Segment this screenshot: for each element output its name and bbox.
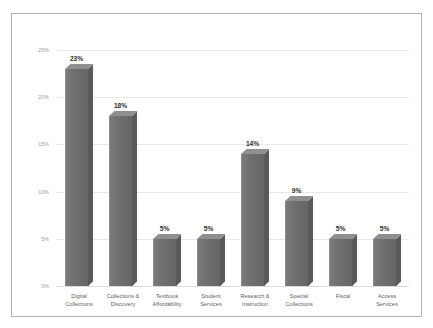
plot-area: 0%5%10%15%20%25% 23%18%5%5%14%9%5%5% (57, 50, 409, 286)
bar-value-label: 5% (153, 225, 176, 232)
bar-front-face (153, 239, 177, 286)
bar-side-face (352, 234, 357, 286)
bar-shape[interactable] (241, 154, 264, 286)
bar-side-face (176, 234, 181, 286)
bar-series: 23%18%5%5%14%9%5%5% (57, 50, 409, 286)
bar-value-label: 5% (197, 225, 220, 232)
bar-column[interactable]: 18% (109, 50, 132, 286)
bar-side-face (264, 149, 269, 286)
bar-column[interactable]: 9% (285, 50, 308, 286)
bar-front-face (285, 201, 309, 286)
bar-value-label: 18% (109, 102, 132, 109)
bar-front-face (241, 154, 265, 286)
y-tick-label: 25% (38, 47, 49, 53)
bar-side-face (88, 64, 93, 286)
bar-column[interactable]: 14% (241, 50, 264, 286)
x-category-label: Digital Collections (57, 292, 101, 308)
bar-value-label: 23% (65, 55, 88, 62)
x-category-label: Special Collections (277, 292, 321, 308)
x-category-label: Access Services (365, 292, 409, 308)
bar-side-face (220, 234, 225, 286)
bar-column[interactable]: 5% (153, 50, 176, 286)
bar-shape[interactable] (197, 239, 220, 286)
bar-shape[interactable] (373, 239, 396, 286)
bar-column[interactable]: 5% (329, 50, 352, 286)
bar-front-face (109, 116, 133, 286)
x-axis-category-labels: Digital CollectionsCollections & Discove… (57, 292, 409, 322)
bar-column[interactable]: 5% (197, 50, 220, 286)
y-tick-label: 15% (38, 141, 49, 147)
x-category-label: Research & Instruction (233, 292, 277, 308)
bar-value-label: 5% (373, 225, 396, 232)
x-category-label: Textbook Affordability (145, 292, 189, 308)
y-tick-label: 5% (41, 236, 49, 242)
bar-front-face (329, 239, 353, 286)
bar-side-face (308, 197, 313, 286)
gridline-0 (57, 286, 409, 287)
y-tick-label: 10% (38, 189, 49, 195)
bar-side-face (396, 234, 401, 286)
bar-shape[interactable] (109, 116, 132, 286)
bar-shape[interactable] (285, 201, 308, 286)
bar-value-label: 5% (329, 225, 352, 232)
y-tick-label: 0% (41, 283, 49, 289)
bar-side-face (132, 112, 137, 286)
bar-value-label: 14% (241, 140, 264, 147)
x-category-label: Fiscal (321, 292, 365, 300)
bar-shape[interactable] (153, 239, 176, 286)
x-category-label: Collections & Discovery (101, 292, 145, 308)
bar-front-face (373, 239, 397, 286)
bar-front-face (65, 69, 89, 286)
bar-front-face (197, 239, 221, 286)
bar-column[interactable]: 23% (65, 50, 88, 286)
x-category-label: Student Services (189, 292, 233, 308)
bar-value-label: 9% (285, 187, 308, 194)
bar-shape[interactable] (329, 239, 352, 286)
chart-frame: 0%5%10%15%20%25% 23%18%5%5%14%9%5%5% Dig… (11, 13, 422, 317)
bar-shape[interactable] (65, 69, 88, 286)
y-tick-label: 20% (38, 94, 49, 100)
bar-column[interactable]: 5% (373, 50, 396, 286)
